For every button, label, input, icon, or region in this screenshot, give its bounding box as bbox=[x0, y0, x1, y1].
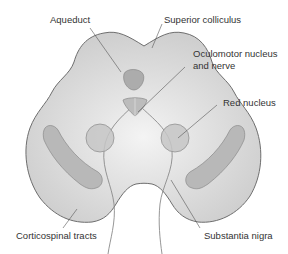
label-oculomotor-line1: Oculomotor nucleus bbox=[193, 48, 277, 60]
label-superior-colliculus: Superior colliculus bbox=[164, 14, 241, 26]
right-red-nucleus bbox=[161, 124, 189, 152]
label-aqueduct: Aqueduct bbox=[50, 14, 90, 26]
label-corticospinal-tracts: Corticospinal tracts bbox=[16, 230, 97, 242]
left-red-nucleus bbox=[86, 124, 114, 152]
label-oculomotor-line2: and nerve bbox=[193, 60, 235, 72]
label-red-nucleus: Red nucleus bbox=[223, 97, 276, 109]
midbrain-diagram bbox=[0, 0, 288, 254]
label-substantia-nigra: Substantia nigra bbox=[204, 230, 273, 242]
